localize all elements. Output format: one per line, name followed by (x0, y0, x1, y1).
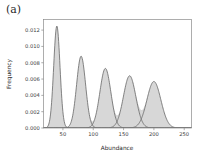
x-tick-label: 100 (88, 131, 98, 137)
x-tick-label: 150 (119, 131, 129, 137)
x-axis-title: Abundance (101, 145, 134, 151)
y-tick-label: 0.000 (25, 125, 40, 131)
y-tick-label: 0.006 (25, 76, 40, 82)
y-tick-label: 0.010 (25, 43, 40, 49)
y-axis-ticks: 0.0000.0020.0040.0060.0080.0100.012 (25, 27, 43, 131)
x-tick-label: 50 (60, 131, 67, 137)
y-axis-title: Frequency (6, 58, 13, 89)
y-tick-label: 0.012 (25, 27, 40, 33)
x-tick-label: 250 (179, 131, 189, 137)
y-tick-label: 0.008 (25, 60, 40, 66)
density-chart: 0.0000.0020.0040.0060.0080.0100.012 5010… (0, 0, 199, 155)
y-tick-label: 0.004 (25, 92, 41, 98)
x-tick-label: 200 (149, 131, 159, 137)
y-tick-label: 0.002 (25, 109, 40, 115)
figure-panel: (a) 0.0000.0020.0040.0060.0080.0100.012 … (0, 0, 199, 155)
plot-background (44, 20, 192, 129)
x-axis-ticks: 50100150200250 (60, 128, 190, 137)
